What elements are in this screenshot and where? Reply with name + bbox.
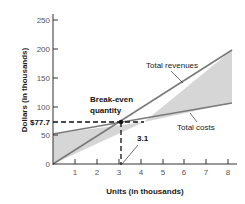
x-tick-labels: 1 2 3 4 5 6 7 8 — [73, 168, 231, 177]
svg-text:2: 2 — [95, 168, 100, 177]
break-even-chart: 250 200 150 100 50 0 1 2 3 4 5 6 7 8 Bre… — [0, 0, 245, 204]
breakeven-label-line2: quantity — [90, 106, 122, 115]
svg-text:4: 4 — [139, 168, 144, 177]
costs-leader — [190, 113, 197, 122]
loss-region — [53, 122, 144, 164]
svg-text:6: 6 — [182, 168, 187, 177]
units-leader — [122, 145, 138, 164]
total-revenues-label: Total revenues — [146, 61, 198, 70]
breakeven-label-line1: Break-even — [90, 95, 133, 104]
svg-text:0: 0 — [46, 160, 51, 169]
svg-text:7: 7 — [204, 168, 209, 177]
revenues-leader — [171, 71, 183, 83]
breakeven-dollars-label: $77.7 — [30, 118, 51, 127]
svg-text:150: 150 — [37, 74, 51, 83]
y-ticks — [53, 20, 58, 135]
x-ticks — [75, 159, 228, 164]
breakeven-units-label: 3.1 — [137, 134, 149, 143]
svg-text:5: 5 — [161, 168, 166, 177]
svg-text:3: 3 — [117, 168, 122, 177]
total-costs-label: Total costs — [177, 123, 215, 132]
svg-text:200: 200 — [37, 45, 51, 54]
svg-text:1: 1 — [73, 168, 78, 177]
breakeven-point — [119, 120, 123, 124]
y-axis-title: Dollars (in thousands) — [20, 47, 29, 132]
svg-text:50: 50 — [41, 131, 50, 140]
x-axis-title: Units (in thousands) — [106, 187, 184, 196]
svg-text:250: 250 — [37, 16, 51, 25]
y-tick-labels: 250 200 150 100 50 0 — [37, 16, 51, 169]
svg-text:100: 100 — [37, 103, 51, 112]
svg-text:8: 8 — [226, 168, 231, 177]
